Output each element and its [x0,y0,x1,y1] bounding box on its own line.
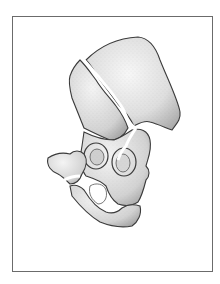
pelvis-fracture-illustration [0,0,220,284]
